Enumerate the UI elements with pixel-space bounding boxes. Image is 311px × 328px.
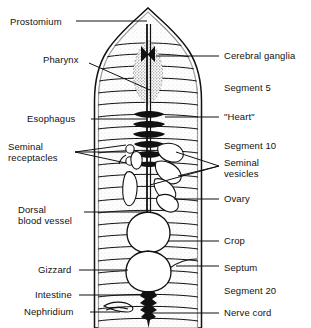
label-cerebral-ganglia: Cerebral ganglia bbox=[224, 50, 295, 61]
label-esophagus: Esophagus bbox=[27, 113, 75, 124]
label-dorsal-blood-vessel: Dorsal blood vessel bbox=[18, 204, 72, 226]
label-nerve-cord: Nerve cord bbox=[224, 307, 271, 318]
label-prostomium: Prostomium bbox=[10, 16, 62, 27]
label-crop: Crop bbox=[224, 235, 245, 246]
label-gizzard: Gizzard bbox=[38, 264, 71, 275]
label-pharynx: Pharynx bbox=[43, 54, 79, 65]
label-segment-10: Segment 10 bbox=[224, 140, 276, 151]
crop-structure bbox=[127, 212, 170, 253]
label-segment-20: Segment 20 bbox=[224, 285, 276, 296]
earthworm-anatomy-figure: Prostomium Pharynx Esophagus Seminal rec… bbox=[0, 0, 311, 328]
label-septum: Septum bbox=[224, 262, 257, 273]
label-segment-5: Segment 5 bbox=[224, 82, 271, 93]
label-seminal-vesicles: Seminal vesicles bbox=[224, 157, 259, 179]
label-seminal-receptacles: Seminal receptacles bbox=[8, 141, 58, 163]
label-nephridium: Nephridium bbox=[24, 306, 74, 317]
label-ovary: Ovary bbox=[224, 193, 250, 204]
label-intestine: Intestine bbox=[35, 289, 72, 300]
label-heart: "Heart" bbox=[224, 111, 255, 122]
gizzard-structure bbox=[126, 251, 171, 292]
